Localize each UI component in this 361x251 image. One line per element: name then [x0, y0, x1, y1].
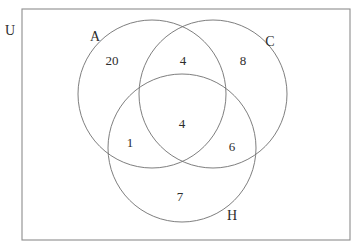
region-count-h-only: 7	[177, 190, 184, 203]
region-count-a-and-h: 1	[127, 136, 134, 149]
region-count-c-only: 8	[240, 54, 247, 67]
region-count-c-and-h: 6	[229, 140, 236, 153]
region-count-a-and-c: 4	[180, 54, 187, 67]
universe-label: U	[5, 24, 15, 38]
set-label-a: A	[90, 30, 100, 44]
region-count-a-c-h: 4	[179, 117, 186, 130]
set-label-h: H	[227, 209, 237, 223]
region-count-a-only: 20	[106, 54, 119, 67]
venn-diagram: U A C H 20 4 8 4 1 6 7	[0, 0, 361, 251]
universe-rectangle	[22, 9, 350, 240]
set-label-c: C	[265, 35, 274, 49]
